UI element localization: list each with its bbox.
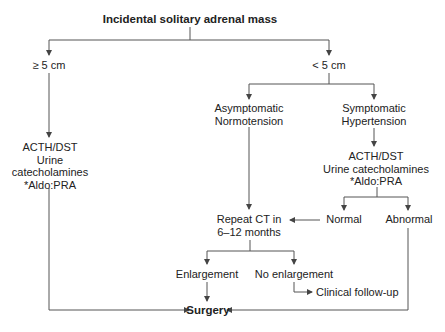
left-catecholamines-label: catecholamines xyxy=(12,166,88,179)
abnormal-label: Abnormal xyxy=(385,213,432,225)
left-aldo-label: *Aldo:PRA xyxy=(12,179,88,192)
left-urine-label: Urine xyxy=(12,154,88,167)
clinical-followup-node: Clinical follow-up xyxy=(316,286,399,299)
symptomatic-node: Symptomatic Hypertension xyxy=(342,102,407,127)
flowchart-canvas: Incidental solitary adrenal mass ≥ 5 cm … xyxy=(0,0,445,332)
no-enlargement-node: No enlargement xyxy=(255,268,333,281)
size-lt5-node: < 5 cm xyxy=(312,59,345,72)
title-label: Incidental solitary adrenal mass xyxy=(103,13,278,25)
clinical-followup-label: Clinical follow-up xyxy=(316,286,399,298)
enlargement-label: Enlargement xyxy=(176,268,238,280)
right-urine-catecholamines-label: Urine catecholamines xyxy=(323,163,429,176)
right-tests-node: ACTH/DST Urine catecholamines *Aldo:PRA xyxy=(323,150,429,188)
size-lt5-label: < 5 cm xyxy=(312,59,345,71)
months-label: 6–12 months xyxy=(217,226,282,239)
left-tests-node: ACTH/DST Urine catecholamines *Aldo:PRA xyxy=(12,141,88,191)
normotension-label: Normotension xyxy=(214,115,283,128)
surgery-label: Surgery xyxy=(186,304,229,316)
asymptomatic-label: Asymptomatic xyxy=(214,102,283,115)
right-acth-label: ACTH/DST xyxy=(323,150,429,163)
enlargement-node: Enlargement xyxy=(176,268,238,281)
abnormal-node: Abnormal xyxy=(385,213,432,226)
symptomatic-label: Symptomatic xyxy=(342,102,407,115)
no-enlargement-label: No enlargement xyxy=(255,268,333,280)
repeat-ct-label: Repeat CT in xyxy=(217,213,282,226)
hypertension-label: Hypertension xyxy=(342,115,407,128)
normal-node: Normal xyxy=(326,213,361,226)
right-aldo-label: *Aldo:PRA xyxy=(323,175,429,188)
size-ge5-node: ≥ 5 cm xyxy=(33,59,66,72)
left-acth-label: ACTH/DST xyxy=(12,141,88,154)
title-node: Incidental solitary adrenal mass xyxy=(103,13,278,26)
size-ge5-label: ≥ 5 cm xyxy=(33,59,66,71)
asymptomatic-node: Asymptomatic Normotension xyxy=(214,102,283,127)
normal-label: Normal xyxy=(326,213,361,225)
surgery-node: Surgery xyxy=(186,304,229,317)
repeat-ct-node: Repeat CT in 6–12 months xyxy=(217,213,282,238)
